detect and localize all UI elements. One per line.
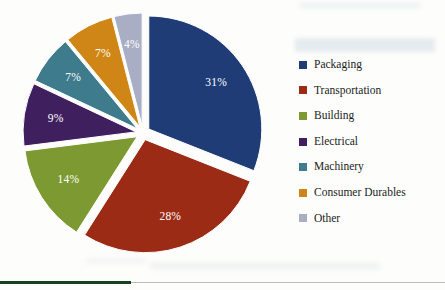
pie-data-label: 31% — [205, 76, 227, 88]
legend-swatch-icon — [299, 163, 307, 171]
legend-item-label: Machinery — [314, 161, 364, 173]
legend-item[interactable]: Building — [299, 103, 439, 129]
divider-accent-segment — [0, 281, 131, 284]
legend-item[interactable]: Packaging — [299, 52, 439, 78]
pie-data-label: 7% — [65, 71, 81, 83]
legend-swatch-icon — [299, 61, 307, 69]
legend-swatch-icon — [299, 214, 307, 222]
pie-data-label: 4% — [124, 38, 140, 50]
legend-item-label: Electrical — [314, 136, 358, 148]
pie-data-label: 7% — [95, 47, 111, 59]
legend-item-label: Building — [314, 110, 354, 122]
legend-swatch-icon — [299, 138, 307, 146]
chart-legend: PackagingTransportationBuildingElectrica… — [299, 52, 439, 231]
legend-item[interactable]: Consumer Durables — [299, 180, 439, 206]
pie-chart-figure: 31%28%14%9%7%7%4% PackagingTransportatio… — [0, 0, 445, 290]
legend-swatch-icon — [299, 112, 307, 120]
scan-artifact — [295, 38, 435, 52]
legend-swatch-icon — [299, 189, 307, 197]
pie-data-label: 9% — [48, 112, 64, 124]
legend-item[interactable]: Electrical — [299, 129, 439, 155]
legend-swatch-icon — [299, 86, 307, 94]
legend-item-label: Consumer Durables — [314, 187, 406, 199]
legend-item[interactable]: Machinery — [299, 154, 439, 180]
legend-item[interactable]: Other — [299, 206, 439, 232]
legend-item-label: Packaging — [314, 59, 362, 71]
legend-item[interactable]: Transportation — [299, 78, 439, 104]
legend-item-label: Other — [314, 213, 340, 225]
pie-data-label: 28% — [159, 210, 181, 222]
pie-slice-group — [23, 13, 262, 253]
footer-divider — [0, 281, 445, 284]
legend-item-label: Transportation — [314, 85, 381, 97]
scan-artifact — [300, 2, 420, 9]
pie-chart-plot: 31%28%14%9%7%7%4% — [0, 0, 290, 276]
pie-data-label: 14% — [58, 173, 80, 185]
divider-line-segment — [131, 282, 445, 283]
